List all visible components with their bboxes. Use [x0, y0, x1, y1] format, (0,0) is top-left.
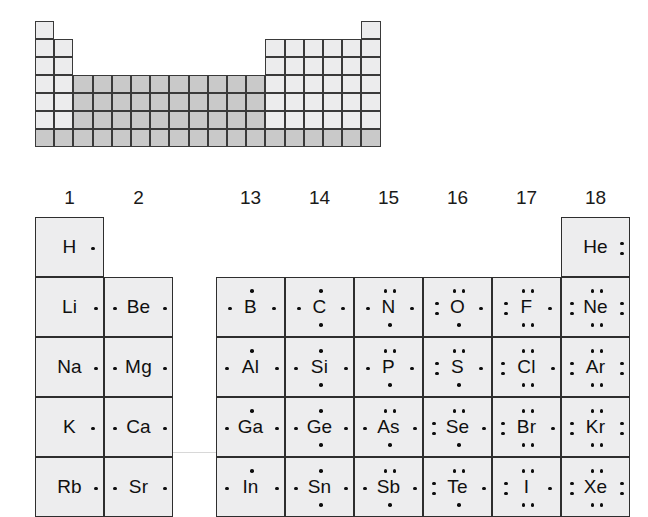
electron-dot-left — [228, 307, 232, 311]
electron-dot-top — [384, 409, 388, 413]
element-symbol-i: I — [524, 476, 529, 498]
electron-dot-right — [163, 367, 167, 371]
element-symbol-ge: Ge — [307, 416, 333, 438]
element-cell-inner: Li — [36, 278, 103, 336]
element-symbol-sr: Sr — [129, 476, 148, 498]
electron-dot-left — [570, 422, 574, 426]
electron-dot-bottom — [531, 443, 535, 447]
element-symbol-as: As — [377, 416, 400, 438]
element-cell-inner: Ga — [217, 398, 284, 456]
element-cell-inner: F — [493, 278, 560, 336]
electron-dot-right — [275, 367, 279, 371]
electron-dot-top — [522, 349, 526, 353]
element-cell-inner: Ar — [562, 338, 629, 396]
element-symbol-al: Al — [242, 356, 259, 378]
element-cell-br: Br — [492, 397, 561, 457]
element-symbol-te: Te — [447, 476, 467, 498]
element-cell-inner: Kr — [562, 398, 629, 456]
electron-dot-top — [600, 349, 604, 353]
element-symbol-sb: Sb — [377, 476, 401, 498]
electron-dot-top — [319, 289, 323, 293]
element-cell-ar: Ar — [561, 337, 630, 397]
electron-dot-top — [384, 289, 388, 293]
element-cell-inner: In — [217, 458, 284, 516]
element-cell-b: B — [216, 277, 285, 337]
electron-dot-left — [225, 427, 229, 431]
element-cell-inner: N — [355, 278, 422, 336]
electron-dot-left — [570, 482, 574, 486]
element-symbol-ne: Ne — [583, 296, 608, 318]
element-cell-na: Na — [35, 337, 104, 397]
electron-dot-bottom — [522, 323, 526, 327]
element-symbol-in: In — [242, 476, 258, 498]
element-symbol-b: B — [244, 296, 257, 318]
element-symbol-p: P — [382, 356, 395, 378]
electron-dot-left — [504, 482, 508, 486]
electron-dot-left — [570, 492, 574, 496]
element-cell-inner: Ca — [105, 398, 172, 456]
electron-dot-right — [344, 367, 348, 371]
element-cell-inner: P — [355, 338, 422, 396]
electron-dot-left — [570, 372, 574, 376]
element-cell-c: C — [285, 277, 354, 337]
element-cell-rb: Rb — [35, 457, 104, 517]
electron-dot-right — [163, 487, 167, 491]
electron-dot-top — [591, 409, 595, 413]
element-cell-inner: Te — [424, 458, 491, 516]
electron-dot-left — [432, 432, 436, 436]
element-symbol-h: H — [63, 236, 77, 258]
element-cell-sn: Sn — [285, 457, 354, 517]
electron-dot-top — [319, 349, 323, 353]
electron-dot-right — [620, 432, 624, 436]
electron-dot-left — [297, 307, 301, 311]
electron-dot-top — [462, 469, 466, 473]
electron-dot-right — [551, 367, 555, 371]
electron-dot-left — [435, 372, 439, 376]
element-cell-h: H — [35, 217, 104, 277]
electron-dot-right — [344, 427, 348, 431]
electron-dot-left — [570, 302, 574, 306]
element-cell-inner: K — [36, 398, 103, 456]
electron-dot-right — [410, 307, 414, 311]
electron-dot-right — [620, 362, 624, 366]
element-cell-inner: I — [493, 458, 560, 516]
electron-dot-right — [91, 427, 95, 431]
element-symbol-li: Li — [62, 296, 77, 318]
electron-dot-right — [548, 307, 552, 311]
element-symbol-rb: Rb — [57, 476, 82, 498]
electron-dot-top — [591, 289, 595, 293]
electron-dot-right — [91, 247, 95, 251]
electron-dot-left — [432, 422, 436, 426]
element-symbol-br: Br — [517, 416, 536, 438]
electron-dot-top — [393, 289, 397, 293]
electron-dot-left — [113, 427, 117, 431]
element-cell-ga: Ga — [216, 397, 285, 457]
element-symbol-kr: Kr — [586, 416, 605, 438]
electron-dot-top — [453, 349, 457, 353]
electron-dot-left — [366, 367, 370, 371]
element-symbol-cl: Cl — [517, 356, 535, 378]
electron-dot-left — [294, 427, 298, 431]
electron-dot-left — [113, 487, 117, 491]
electron-dot-right — [275, 427, 279, 431]
electron-dot-right — [620, 252, 624, 256]
element-cell-p: P — [354, 337, 423, 397]
electron-dot-top — [393, 469, 397, 473]
electron-dot-right — [94, 367, 98, 371]
electron-dot-top — [600, 409, 604, 413]
element-cell-inner: Ne — [562, 278, 629, 336]
electron-dot-bottom — [388, 383, 392, 387]
element-cell-sb: Sb — [354, 457, 423, 517]
electron-dot-top — [591, 469, 595, 473]
electron-dot-top — [393, 349, 397, 353]
electron-dot-left — [570, 432, 574, 436]
electron-dot-left — [435, 302, 439, 306]
electron-dot-bottom — [600, 443, 604, 447]
element-cell-inner: Br — [493, 398, 560, 456]
electron-dot-top — [462, 349, 466, 353]
electron-dot-left — [432, 482, 436, 486]
electron-dot-left — [435, 362, 439, 366]
electron-dot-top — [319, 409, 323, 413]
lewis-dot-symbol-table: HHeLiBeBCNOFNeNaMgAlSiPSClArKCaGaGeAsSeB… — [0, 0, 648, 517]
element-cell-s: S — [423, 337, 492, 397]
